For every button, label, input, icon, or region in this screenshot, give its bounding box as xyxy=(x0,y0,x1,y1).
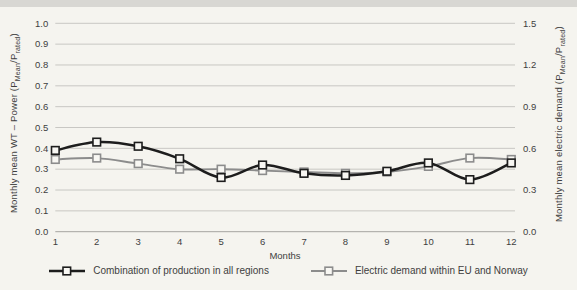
legend-label-production: Combination of production in all regions xyxy=(93,265,269,276)
production-series-marker xyxy=(342,172,350,180)
left-axis-tick-label: 0.8 xyxy=(35,59,48,70)
demand-series-marker xyxy=(217,165,225,173)
production-series-marker xyxy=(134,142,142,150)
demand-series-line xyxy=(55,158,511,174)
production-series-marker xyxy=(176,155,184,163)
demand-series-marker xyxy=(52,156,60,164)
production-series-marker xyxy=(508,159,516,167)
x-axis-tick-label: 8 xyxy=(343,236,348,247)
production-series-marker xyxy=(383,167,391,175)
production-series-marker xyxy=(93,138,101,146)
production-series-marker xyxy=(425,159,433,167)
left-axis-tick-label: 1.0 xyxy=(35,18,48,29)
demand-line-swatch xyxy=(311,266,347,276)
left-axis-tick-label: 0.2 xyxy=(35,184,48,195)
right-axis-tick-label: 1.5 xyxy=(523,18,536,29)
production-line-swatch xyxy=(49,266,85,276)
left-axis-tick-label: 0.4 xyxy=(35,143,48,154)
demand-series-marker xyxy=(134,160,142,168)
right-axis-tick-label: 0.9 xyxy=(523,101,536,112)
demand-series-marker xyxy=(466,154,474,162)
x-axis-title: Months xyxy=(55,250,515,261)
right-axis-tick-label: 1.2 xyxy=(523,59,536,70)
left-axis-tick-label: 0.7 xyxy=(35,80,48,91)
legend-item-demand: Electric demand within EU and Norway xyxy=(311,265,528,276)
left-axis-tick-label: 0.9 xyxy=(35,38,48,49)
legend-label-demand: Electric demand within EU and Norway xyxy=(355,265,528,276)
left-axis-tick-label: 0.5 xyxy=(35,122,48,133)
production-series-marker xyxy=(259,161,267,169)
production-series-marker xyxy=(300,170,308,178)
x-axis-tick-label: 12 xyxy=(506,236,517,247)
right-axis-title: Monthly mean electric demand (PMean/Prat… xyxy=(553,26,566,222)
x-axis-tick-label: 3 xyxy=(136,236,141,247)
plot-area: 1.00.90.80.70.60.50.40.30.20.10.01.51.20… xyxy=(0,0,577,290)
right-axis-tick-label: 0.3 xyxy=(523,184,536,195)
x-axis-tick-label: 9 xyxy=(384,236,389,247)
right-axis-tick-label: 0.0 xyxy=(523,226,536,237)
x-axis-tick-label: 7 xyxy=(301,236,306,247)
left-axis-tick-label: 0.0 xyxy=(35,226,48,237)
demand-series-marker xyxy=(176,165,184,173)
x-axis-tick-label: 2 xyxy=(94,236,99,247)
left-axis-tick-label: 0.1 xyxy=(35,205,48,216)
demand-series-marker xyxy=(93,154,101,162)
left-axis-tick-label: 0.6 xyxy=(35,101,48,112)
right-axis-tick-label: 0.6 xyxy=(523,143,536,154)
left-axis-title: Monthly mean WT – Power (PMean/Prated) xyxy=(8,33,21,213)
x-axis-tick-label: 10 xyxy=(423,236,434,247)
x-axis-tick-label: 5 xyxy=(218,236,223,247)
x-axis-tick-label: 4 xyxy=(177,236,182,247)
x-axis-tick-label: 11 xyxy=(465,236,475,247)
legend-item-production: Combination of production in all regions xyxy=(49,265,269,276)
x-axis-tick-label: 1 xyxy=(53,236,58,247)
production-series-marker xyxy=(217,174,225,182)
left-axis-tick-label: 0.3 xyxy=(35,163,48,174)
x-axis-tick-label: 6 xyxy=(260,236,265,247)
production-series-marker xyxy=(466,176,474,184)
legend: Combination of production in all regions… xyxy=(0,265,577,276)
production-series-marker xyxy=(52,147,60,155)
